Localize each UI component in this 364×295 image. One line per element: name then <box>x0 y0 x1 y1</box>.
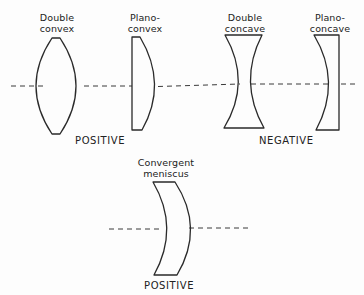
double-convex-label-line2: convex <box>36 23 78 34</box>
plano-concave-lens-icon <box>314 35 339 130</box>
optical-axis-bottom <box>109 228 249 229</box>
double-concave-label-line2: concave <box>222 23 268 34</box>
double-convex-label-line1: Double <box>36 12 78 23</box>
optical-axis-top <box>11 84 358 87</box>
plano-convex-label-line1: Plano- <box>124 12 166 23</box>
convergent-meniscus-label-line2: meniscus <box>136 168 196 179</box>
plano-concave-label-line1: Plano- <box>307 12 353 23</box>
double-concave-label-line1: Double <box>222 12 268 23</box>
positive-group-label-top: POSITIVE <box>75 135 125 147</box>
plano-concave-label: Plano- concave <box>307 12 353 34</box>
double-concave-lens-icon <box>224 35 264 128</box>
plano-concave-label-line2: concave <box>307 23 353 34</box>
lens-diagram-graphic <box>0 0 364 295</box>
positive-group-label-bottom: POSITIVE <box>144 280 194 292</box>
double-convex-label: Double convex <box>36 12 78 34</box>
plano-convex-label-line2: convex <box>124 23 166 34</box>
plano-convex-label: Plano- convex <box>124 12 166 34</box>
convergent-meniscus-label-line1: Convergent <box>136 157 196 168</box>
double-concave-label: Double concave <box>222 12 268 34</box>
lens-types-diagram: Double convex Plano- convex Double conca… <box>0 0 364 295</box>
convergent-meniscus-label: Convergent meniscus <box>136 157 196 179</box>
negative-group-label: NEGATIVE <box>259 135 314 147</box>
plano-convex-lens-icon <box>132 37 155 130</box>
